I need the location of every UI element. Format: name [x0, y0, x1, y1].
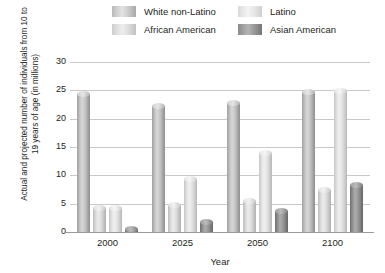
legend-item-latino: Latino: [238, 6, 296, 17]
bar-cap: [200, 219, 213, 225]
legend-swatch-icon: [112, 24, 136, 35]
bar: [350, 182, 363, 232]
bar-body: [334, 91, 347, 233]
bar-chart: White non-Latino African American Latino…: [0, 0, 385, 273]
bar-body: [243, 201, 256, 232]
x-axis-tick-label: 2025: [148, 238, 218, 248]
legend-swatch-icon: [112, 6, 136, 17]
bar-cap: [168, 202, 181, 208]
y-axis-tick-label: 5: [44, 199, 66, 208]
bar-group: [145, 62, 220, 232]
bar-cap: [318, 187, 331, 193]
legend-swatch-icon: [238, 24, 262, 35]
bar-body: [350, 185, 363, 232]
chart-legend: White non-Latino African American Latino…: [112, 6, 380, 42]
legend-item-african-american: African American: [112, 24, 216, 35]
bar-cap: [243, 198, 256, 204]
bar-group: [220, 62, 295, 232]
bar: [93, 205, 106, 232]
bar-body: [275, 211, 288, 232]
bar-group: [295, 62, 370, 232]
legend-item-white-non-latino: White non-Latino: [112, 6, 216, 17]
legend-label: Latino: [270, 6, 296, 17]
bar-cap: [259, 150, 272, 156]
bar: [334, 88, 347, 233]
bar-body: [168, 205, 181, 232]
x-axis-tick-label: 2100: [298, 238, 368, 248]
bar: [152, 103, 165, 232]
bar: [184, 176, 197, 232]
bar: [168, 202, 181, 232]
x-axis-line: [66, 232, 374, 233]
bar: [275, 208, 288, 232]
x-axis-title: Year: [70, 256, 370, 267]
y-axis-tick-label: 0: [44, 227, 66, 236]
legend-swatch-icon: [238, 6, 262, 17]
bar: [200, 219, 213, 232]
bar-cap: [334, 88, 347, 94]
plot-area: 302520151050 2000202520502100 Year: [70, 62, 370, 232]
bar-cap: [93, 205, 106, 211]
bar: [77, 91, 90, 232]
bar-body: [109, 208, 122, 232]
x-axis-tick-label: 2050: [223, 238, 293, 248]
bar-body: [93, 208, 106, 232]
bar-cap: [152, 103, 165, 109]
bar-body: [184, 179, 197, 232]
bar-group: [70, 62, 145, 232]
bar-body: [259, 153, 272, 232]
y-axis-tick-label: 30: [44, 57, 66, 66]
x-axis-tick-label: 2000: [73, 238, 143, 248]
bar: [227, 100, 240, 232]
y-axis-tick-label: 10: [44, 170, 66, 179]
bar: [243, 198, 256, 232]
bar: [109, 205, 122, 232]
bar: [318, 187, 331, 232]
legend-label: White non-Latino: [144, 6, 216, 17]
y-axis-tick-label: 20: [44, 114, 66, 123]
bar-body: [318, 190, 331, 232]
bar-body: [152, 106, 165, 232]
bar: [125, 226, 138, 232]
legend-label: Asian American: [270, 24, 336, 35]
bar-body: [77, 94, 90, 232]
y-axis-tick-label: 25: [44, 85, 66, 94]
legend-label: African American: [144, 24, 216, 35]
bar-cap: [302, 89, 315, 95]
legend-item-asian-american: Asian American: [238, 24, 336, 35]
bar: [302, 89, 315, 232]
bar-body: [227, 103, 240, 232]
bar-cap: [227, 100, 240, 106]
bar-body: [302, 92, 315, 232]
y-axis-tick-label: 15: [44, 142, 66, 151]
y-axis-title: Actual and projected number of individua…: [19, 6, 41, 202]
bar: [259, 150, 272, 232]
